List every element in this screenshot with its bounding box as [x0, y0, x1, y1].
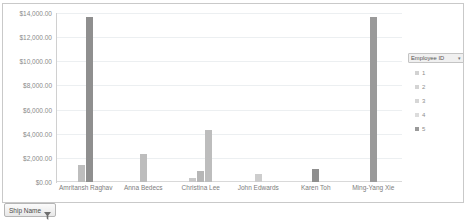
bar-group [172, 13, 230, 182]
bar[interactable] [370, 17, 377, 182]
x-axis-tick-label: Amritansh Raghav [59, 184, 112, 191]
legend-item[interactable]: 4 [415, 108, 464, 122]
legend-item-label: 5 [422, 126, 425, 132]
filter-funnel-icon[interactable] [44, 206, 51, 214]
ship-name-filter-button[interactable]: Ship Name [4, 203, 56, 217]
chart-screenshot: $14,000.00$12,000.00$10,000.00$8,000.00$… [0, 0, 469, 220]
y-axis-tick-label: $14,000.00 [19, 10, 52, 17]
y-axis-tick-label: $8,000.00 [23, 82, 52, 89]
y-axis-tick-label: $10,000.00 [19, 58, 52, 65]
x-axis-tick-label: Ming-Yang Xie [352, 184, 394, 191]
bar[interactable] [86, 17, 93, 182]
legend-item-label: 3 [422, 98, 425, 104]
y-axis-labels: $14,000.00$12,000.00$10,000.00$8,000.00$… [3, 4, 55, 194]
bar-group [345, 13, 403, 182]
y-axis-tick-label: $6,000.00 [23, 106, 52, 113]
bar[interactable] [197, 171, 204, 182]
legend-item[interactable]: 5 [415, 122, 464, 136]
legend-swatch [415, 85, 419, 89]
plot-area [57, 13, 402, 182]
bar[interactable] [140, 154, 147, 182]
bar[interactable] [205, 130, 212, 182]
y-axis-tick-label: $12,000.00 [19, 34, 52, 41]
x-axis-tick-label: John Edwards [238, 184, 279, 191]
bar[interactable] [78, 165, 85, 182]
legend-swatch [415, 127, 419, 131]
x-axis-labels: Amritansh RaghavAnna BedecsChristina Lee… [57, 184, 402, 198]
legend-item-label: 1 [422, 70, 425, 76]
x-axis-tick-label: Karen Toh [301, 184, 331, 191]
legend-title: Employee ID [411, 55, 444, 61]
y-axis-tick-label: $0.00 [36, 179, 52, 186]
bar-group [230, 13, 288, 182]
legend-item-label: 4 [422, 112, 425, 118]
bar-group [57, 13, 115, 182]
y-axis-tick-label: $4,000.00 [23, 130, 52, 137]
legend-swatch [415, 99, 419, 103]
legend-item[interactable]: 2 [415, 80, 464, 94]
bar-group [115, 13, 173, 182]
y-axis-tick-label: $2,000.00 [23, 154, 52, 161]
legend[interactable]: Employee ID ▾ 12345 [408, 53, 464, 136]
legend-swatch [415, 113, 419, 117]
legend-header[interactable]: Employee ID ▾ [408, 53, 464, 63]
legend-item[interactable]: 1 [415, 66, 464, 80]
filter-button-label: Ship Name [9, 207, 41, 214]
bar[interactable] [255, 174, 262, 182]
bar[interactable] [312, 169, 319, 182]
legend-item[interactable]: 3 [415, 94, 464, 108]
x-axis-tick-label: Anna Bedecs [124, 184, 163, 191]
chart-frame: $14,000.00$12,000.00$10,000.00$8,000.00$… [2, 3, 464, 203]
legend-item-label: 2 [422, 84, 425, 90]
legend-items: 12345 [408, 66, 464, 136]
chevron-down-icon[interactable]: ▾ [458, 56, 461, 61]
bar-group [287, 13, 345, 182]
x-axis-tick-label: Christina Lee [182, 184, 220, 191]
bar[interactable] [189, 178, 196, 182]
legend-swatch [415, 71, 419, 75]
